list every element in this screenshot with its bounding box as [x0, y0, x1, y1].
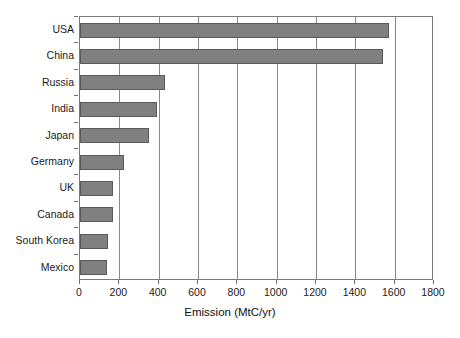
x-axis-label-0: 0: [57, 286, 101, 298]
x-axis-tick-1200: [315, 280, 316, 284]
y-axis-tick: [74, 201, 78, 202]
y-axis-label-south-korea: South Korea: [0, 227, 74, 253]
y-axis-tick: [74, 16, 78, 17]
x-axis-label-800: 800: [214, 286, 258, 298]
bar-row: [80, 175, 434, 201]
x-axis-label-600: 600: [175, 286, 219, 298]
y-axis-tick: [74, 174, 78, 175]
x-axis-tick-400: [158, 280, 159, 284]
bar-row: [80, 228, 434, 254]
bar-row: [80, 123, 434, 149]
x-axis-tick-1600: [394, 280, 395, 284]
y-axis-label-india: India: [0, 95, 74, 121]
y-axis-label-usa: USA: [0, 16, 74, 42]
y-axis-label-china: China: [0, 42, 74, 68]
x-axis-label-200: 200: [96, 286, 140, 298]
y-axis-label-russia: Russia: [0, 69, 74, 95]
bar-series: [80, 17, 432, 279]
x-axis-label-1200: 1200: [293, 286, 337, 298]
y-axis-label-japan: Japan: [0, 122, 74, 148]
x-axis-tick-200: [118, 280, 119, 284]
x-axis-label-1600: 1600: [372, 286, 416, 298]
x-axis-tick-1400: [354, 280, 355, 284]
bar-row: [80, 70, 434, 96]
bar-row: [80, 43, 434, 69]
x-axis-label-1400: 1400: [332, 286, 376, 298]
bar-row: [80, 17, 434, 43]
x-axis-title: Emission (MtC/yr): [0, 306, 460, 318]
y-axis-tick: [74, 227, 78, 228]
bar-row: [80, 149, 434, 175]
x-axis-label-400: 400: [136, 286, 180, 298]
y-axis-tick: [74, 122, 78, 123]
bar: [80, 128, 149, 143]
bar: [80, 181, 113, 196]
bar-row: [80, 202, 434, 228]
x-axis-tick-800: [236, 280, 237, 284]
bar: [80, 49, 383, 64]
y-axis-tick: [74, 148, 78, 149]
y-axis-category-labels: USAChinaRussiaIndiaJapanGermanyUKCanadaS…: [0, 16, 74, 280]
bar: [80, 75, 165, 90]
x-axis-tick-0: [79, 280, 80, 284]
bar: [80, 102, 157, 117]
y-axis-label-germany: Germany: [0, 148, 74, 174]
bar: [80, 234, 108, 249]
x-axis-tick-1800: [433, 280, 434, 284]
x-axis-label-1000: 1000: [254, 286, 298, 298]
y-axis-tick: [74, 95, 78, 96]
plot-area: [79, 16, 433, 280]
y-axis-label-uk: UK: [0, 174, 74, 200]
emission-bar-chart: USAChinaRussiaIndiaJapanGermanyUKCanadaS…: [0, 0, 460, 338]
bar: [80, 23, 389, 38]
bar: [80, 260, 107, 275]
x-axis-tick-1000: [276, 280, 277, 284]
bar: [80, 207, 113, 222]
bar-row: [80, 96, 434, 122]
y-axis-label-mexico: Mexico: [0, 254, 74, 280]
y-axis-label-canada: Canada: [0, 201, 74, 227]
x-axis-tick-600: [197, 280, 198, 284]
y-axis-tick: [74, 254, 78, 255]
bar-row: [80, 255, 434, 281]
y-axis-tick: [74, 69, 78, 70]
bar: [80, 155, 124, 170]
y-axis-tick: [74, 42, 78, 43]
x-axis-label-1800: 1800: [411, 286, 455, 298]
